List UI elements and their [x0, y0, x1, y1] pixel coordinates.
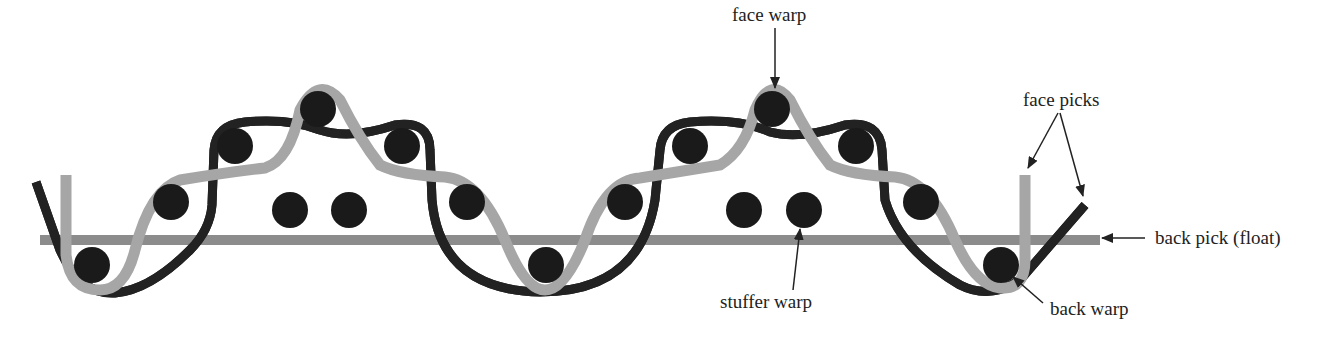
face-picks-arrow-1 [1028, 113, 1058, 168]
stuffer-pick [786, 192, 822, 228]
pick [74, 247, 110, 283]
pick [272, 192, 308, 228]
face-picks-label: face picks [1023, 89, 1099, 110]
pick [528, 247, 564, 283]
back-warp-label: back warp [1050, 298, 1129, 319]
stuffer-warp-label: stuffer warp [720, 291, 812, 312]
pick [672, 128, 708, 164]
pick [754, 91, 790, 127]
pick [384, 128, 420, 164]
pick [903, 184, 939, 220]
pick [331, 192, 367, 228]
face-picks-arrow-2 [1060, 113, 1083, 196]
pick [153, 184, 189, 220]
pick [449, 184, 485, 220]
face-warp-label: face warp [732, 4, 806, 25]
pick [217, 128, 253, 164]
pick [838, 128, 874, 164]
pick [300, 91, 336, 127]
weave-diagram: face warp face picks back pick (float) s… [0, 0, 1329, 338]
pick [607, 184, 643, 220]
back-pick-label: back pick (float) [1155, 227, 1281, 249]
pick [726, 192, 762, 228]
